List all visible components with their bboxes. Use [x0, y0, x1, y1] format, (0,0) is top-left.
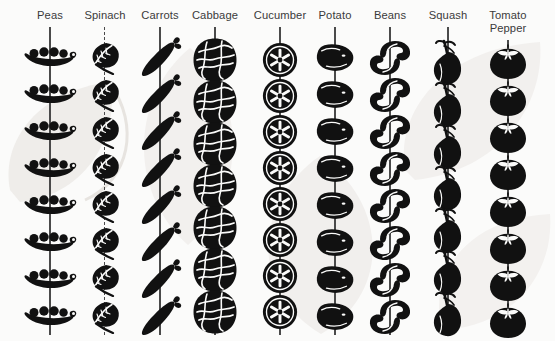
- cucumber-slice-icon: [262, 114, 298, 150]
- cabbage-head-icon: [192, 79, 238, 125]
- cucumber-slice-icon: [262, 222, 298, 258]
- cabbage-head-icon: [192, 247, 238, 293]
- squash-icon: [428, 38, 468, 86]
- squash-icon: [428, 290, 468, 338]
- cabbage-head-icon: [192, 163, 238, 209]
- cabbage-head-icon: [192, 121, 238, 167]
- cucumber-slice-icon: [262, 258, 298, 294]
- potato-tuber-icon: [315, 264, 355, 296]
- potato-tuber-icon: [315, 116, 355, 148]
- potato-tuber-icon: [315, 190, 355, 222]
- bean-pod-icon: [367, 261, 413, 299]
- cabbage-head-icon: [192, 205, 238, 251]
- potato-tuber-icon: [315, 227, 355, 259]
- cucumber-slice-icon: [262, 42, 298, 78]
- potato-tuber-icon: [315, 42, 355, 74]
- bean-pod-icon: [367, 187, 413, 225]
- tomato-icon: [488, 118, 528, 154]
- squash-icon: [428, 122, 468, 170]
- tomato-icon: [488, 155, 528, 191]
- cucumber-slice-icon: [262, 186, 298, 222]
- bean-pod-icon: [367, 150, 413, 188]
- bean-pod-icon: [367, 113, 413, 151]
- tomato-icon: [488, 81, 528, 117]
- potato-tuber-icon: [315, 153, 355, 185]
- bean-pod-icon: [367, 224, 413, 262]
- bean-pod-icon: [367, 298, 413, 336]
- tomato-icon: [488, 192, 528, 228]
- squash-icon: [428, 248, 468, 296]
- column-tomato-pepper: TomatoPepper: [468, 0, 548, 341]
- squash-icon: [428, 164, 468, 212]
- tomato-icon: [488, 229, 528, 265]
- squash-icon: [428, 80, 468, 128]
- cabbage-head-icon: [192, 37, 238, 83]
- bean-pod-icon: [367, 39, 413, 77]
- bean-pod-icon: [367, 76, 413, 114]
- cucumber-slice-icon: [262, 294, 298, 330]
- squash-icon: [428, 206, 468, 254]
- cabbage-head-icon: [192, 289, 238, 335]
- tomato-icon: [488, 303, 528, 339]
- cucumber-slice-icon: [262, 150, 298, 186]
- tomato-icon: [488, 44, 528, 80]
- tomato-icon: [488, 266, 528, 302]
- icon-stack-tomato-pepper: [468, 0, 548, 341]
- potato-tuber-icon: [315, 79, 355, 111]
- cucumber-slice-icon: [262, 78, 298, 114]
- potato-tuber-icon: [315, 301, 355, 333]
